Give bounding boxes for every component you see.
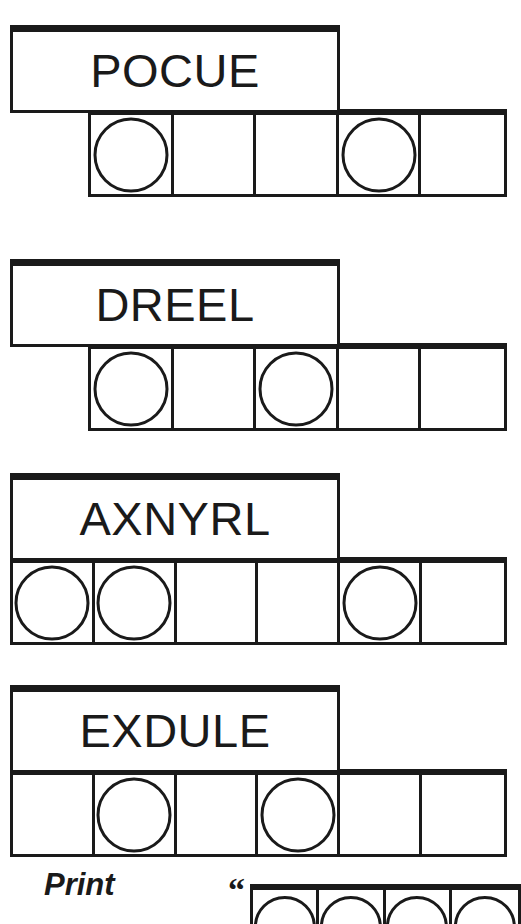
answer-cell[interactable]	[95, 775, 177, 854]
scrambled-word-text: DREEL	[95, 281, 254, 328]
circle-marker-icon	[386, 896, 448, 924]
circle-marker-icon	[15, 565, 90, 640]
scrambled-word-text: EXDULE	[79, 707, 270, 754]
answer-cell[interactable]	[174, 349, 257, 428]
answer-cell[interactable]	[340, 563, 422, 642]
circle-marker-icon	[342, 565, 417, 640]
answer-cell[interactable]	[256, 349, 339, 428]
circle-marker-icon	[260, 777, 335, 852]
scrambled-word-text: POCUE	[90, 47, 260, 94]
answer-cell[interactable]	[91, 349, 174, 428]
answer-cell[interactable]	[13, 563, 95, 642]
circle-marker-icon	[93, 117, 168, 192]
circle-marker-icon	[320, 896, 382, 924]
scrambled-word-box: AXNYRL	[10, 473, 340, 561]
answer-cell[interactable]	[256, 115, 339, 194]
answer-cell[interactable]	[177, 563, 259, 642]
answer-cell-row	[10, 769, 507, 857]
circle-marker-icon	[454, 896, 516, 924]
answer-cell[interactable]	[253, 890, 319, 924]
answer-cell[interactable]	[421, 115, 504, 194]
circle-marker-icon	[93, 351, 168, 426]
answer-cell[interactable]	[177, 775, 259, 854]
footer-answer-cell-row	[250, 884, 521, 924]
answer-cell[interactable]	[258, 563, 340, 642]
scrambled-word-box: POCUE	[10, 25, 340, 113]
open-quote-mark: “	[228, 873, 245, 907]
circle-marker-icon	[254, 896, 316, 924]
circle-marker-icon	[97, 777, 172, 852]
answer-cell[interactable]	[422, 775, 504, 854]
answer-cell-row	[88, 343, 507, 431]
circle-marker-icon	[258, 351, 333, 426]
answer-cell-row	[88, 109, 507, 197]
scrambled-word-text: AXNYRL	[79, 495, 270, 542]
answer-cell[interactable]	[13, 775, 95, 854]
answer-cell[interactable]	[422, 563, 504, 642]
answer-cell[interactable]	[339, 115, 422, 194]
answer-cell[interactable]	[339, 349, 422, 428]
answer-cell[interactable]	[258, 775, 340, 854]
circle-marker-icon	[97, 565, 172, 640]
answer-cell[interactable]	[174, 115, 257, 194]
answer-cell[interactable]	[91, 115, 174, 194]
answer-cell[interactable]	[95, 563, 177, 642]
answer-cell[interactable]	[386, 890, 452, 924]
scrambled-word-box: EXDULE	[10, 685, 340, 773]
answer-cell[interactable]	[421, 349, 504, 428]
answer-cell[interactable]	[452, 890, 518, 924]
print-instruction-label: Print	[44, 869, 115, 900]
answer-cell-row	[10, 557, 507, 645]
answer-cell[interactable]	[319, 890, 385, 924]
scrambled-word-box: DREEL	[10, 259, 340, 347]
circle-marker-icon	[341, 117, 416, 192]
answer-cell[interactable]	[340, 775, 422, 854]
